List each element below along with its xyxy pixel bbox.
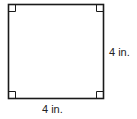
right-angle-marker-bottom-right	[97, 92, 104, 99]
bottom-side-label: 4 in.	[42, 103, 63, 115]
right-side-label: 4 in.	[109, 46, 130, 58]
square-diagram: 4 in. 4 in.	[0, 0, 137, 119]
right-angle-marker-top-left	[9, 5, 16, 12]
square	[9, 5, 104, 99]
right-angle-marker-bottom-left	[9, 92, 16, 99]
right-angle-marker-top-right	[97, 5, 104, 12]
